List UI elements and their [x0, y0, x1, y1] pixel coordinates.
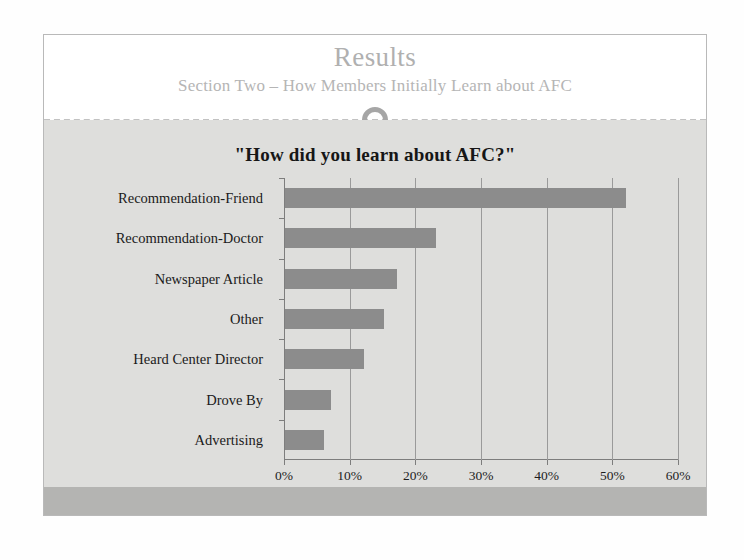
chart-title: "How did you learn about AFC?"	[44, 144, 706, 166]
bar	[285, 228, 436, 248]
category-axis-labels: Recommendation-FriendRecommendation-Doct…	[56, 178, 271, 460]
category-axis-label: Recommendation-Friend	[118, 191, 263, 206]
presentation-slide: Results Section Two – How Members Initia…	[43, 34, 707, 516]
bar	[285, 188, 626, 208]
slide-body: "How did you learn about AFC?" Recommend…	[44, 120, 706, 515]
y-axis-tick-mark	[279, 259, 284, 260]
x-axis-tick-label: 10%	[337, 468, 362, 484]
x-axis-tick-mark	[612, 460, 613, 465]
category-axis-label: Heard Center Director	[133, 352, 263, 367]
x-axis-tick-mark	[547, 460, 548, 465]
x-axis-tick-mark	[415, 460, 416, 465]
chart-inner: Recommendation-FriendRecommendation-Doct…	[56, 178, 696, 508]
category-axis-label: Recommendation-Doctor	[116, 231, 263, 246]
y-axis-tick-mark	[279, 379, 284, 380]
bar	[285, 349, 364, 369]
bar-chart: Recommendation-FriendRecommendation-Doct…	[56, 178, 696, 508]
x-axis-tick-label: 50%	[600, 468, 625, 484]
category-axis-label: Other	[230, 312, 263, 327]
gridline	[678, 178, 679, 460]
x-axis-tick-label: 40%	[534, 468, 559, 484]
y-axis-tick-mark	[279, 218, 284, 219]
gridline	[612, 178, 613, 460]
slide-title: Results	[44, 35, 706, 73]
category-axis-label: Advertising	[195, 433, 263, 448]
x-axis-tick-mark	[678, 460, 679, 465]
slide-footer-band	[44, 487, 706, 515]
plot-area: 0%10%20%30%40%50%60%	[284, 178, 678, 460]
category-axis-label: Drove By	[206, 393, 263, 408]
x-axis-tick-label: 30%	[469, 468, 494, 484]
bar	[285, 309, 384, 329]
bar	[285, 390, 331, 410]
bar	[285, 430, 324, 450]
slide-canvas: Results Section Two – How Members Initia…	[0, 0, 744, 560]
gridline	[481, 178, 482, 460]
x-axis-tick-mark	[481, 460, 482, 465]
gridline	[415, 178, 416, 460]
y-axis-tick-mark	[279, 299, 284, 300]
gridline	[547, 178, 548, 460]
x-axis-tick-label: 20%	[403, 468, 428, 484]
y-axis-tick-mark	[279, 339, 284, 340]
bar	[285, 269, 397, 289]
y-axis-tick-mark	[279, 178, 284, 179]
y-axis-tick-mark	[279, 420, 284, 421]
slide-subtitle: Section Two – How Members Initially Lear…	[44, 73, 706, 96]
x-axis-tick-label: 0%	[275, 468, 293, 484]
category-axis-label: Newspaper Article	[155, 272, 263, 287]
x-axis-tick-mark	[350, 460, 351, 465]
x-axis-tick-mark	[284, 460, 285, 465]
x-axis-tick-label: 60%	[666, 468, 691, 484]
